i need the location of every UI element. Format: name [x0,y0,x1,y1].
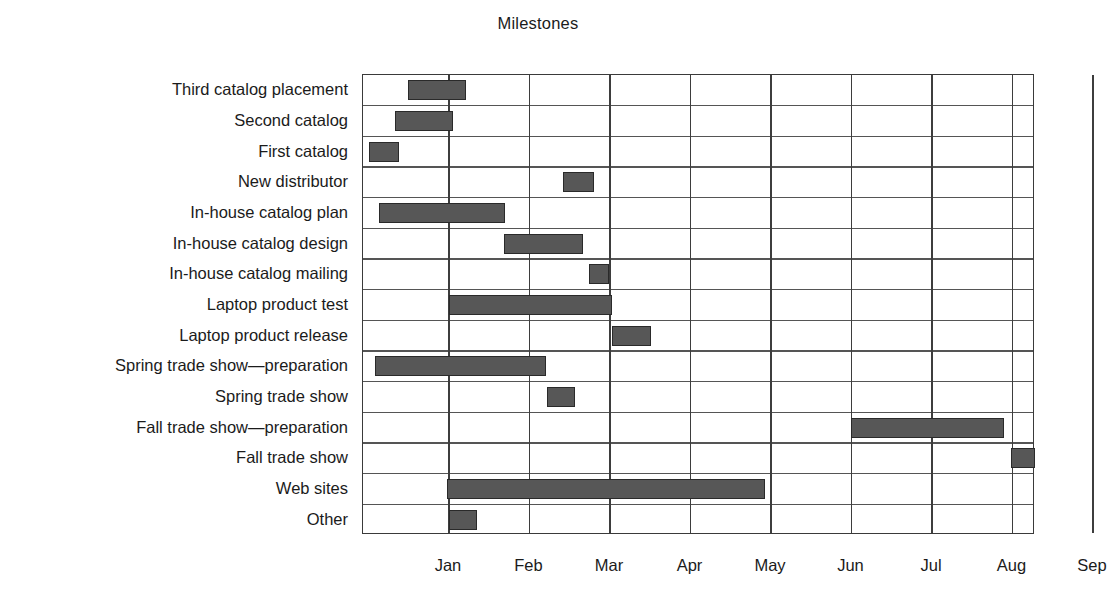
category-label: Spring trade show—preparation [0,357,348,374]
gantt-bar [408,80,466,100]
row-separator [363,504,1033,505]
category-axis-labels: Third catalog placementSecond catalogFir… [0,74,356,534]
plot-area [362,74,1034,534]
category-label: Laptop product test [0,296,348,313]
row-separator [363,350,1033,351]
gantt-bar [375,356,546,376]
gridline-jan [448,75,450,533]
category-label: Third catalog placement [0,81,348,98]
month-tick-label: Apr [655,556,725,575]
gantt-bar [1011,448,1035,468]
gantt-bar [612,326,651,346]
gridline-may [770,75,772,533]
gridline-sep [1092,75,1094,533]
month-tick-label: Aug [977,556,1047,575]
category-label: Web sites [0,480,348,497]
gantt-bar [589,264,609,284]
row-separator [363,105,1033,106]
category-label: In-house catalog plan [0,204,348,221]
month-tick-label: Sep [1057,556,1111,575]
gantt-bar [449,295,612,315]
horizontal-gridlines [363,75,1033,533]
row-separator [363,197,1033,198]
row-separator [363,228,1033,229]
month-tick-label: Jul [896,556,966,575]
category-label: Second catalog [0,112,348,129]
category-label: Spring trade show [0,388,348,405]
gantt-bar [547,387,574,407]
category-label: In-house catalog mailing [0,265,348,282]
category-label: Fall trade show [0,449,348,466]
row-separator [363,381,1033,382]
gridline-aug [1012,75,1014,533]
category-label: New distributor [0,173,348,190]
gantt-bar [369,142,399,162]
gridline-apr [690,75,692,533]
row-separator [363,442,1033,443]
month-tick-label: Feb [494,556,564,575]
row-separator [363,320,1033,321]
gantt-bars [363,75,1033,533]
gantt-bar [395,111,453,131]
vertical-gridlines [363,75,1033,533]
row-separator [363,136,1033,137]
category-label: Laptop product release [0,327,348,344]
month-axis-labels: JanFebMarAprMayJunJulAugSep [0,556,1076,582]
row-separator [363,258,1033,259]
gridline-mar [609,75,611,533]
month-tick-label: May [735,556,805,575]
chart-title: Milestones [0,14,1076,33]
category-label: First catalog [0,143,348,160]
gridline-jul [931,75,933,533]
gantt-bar [504,234,584,254]
gantt-bar [379,203,505,223]
gridline-jun [851,75,853,533]
row-separator [363,473,1033,474]
month-tick-label: Mar [574,556,644,575]
category-label: Fall trade show—preparation [0,419,348,436]
category-label: Other [0,511,348,528]
gantt-bar [449,510,477,530]
category-label: In-house catalog design [0,235,348,252]
gantt-bar [851,418,1004,438]
month-tick-label: Jun [816,556,886,575]
gantt-bar [447,479,765,499]
row-separator [363,289,1033,290]
row-separator [363,166,1033,167]
gantt-bar [563,172,594,192]
row-separator [363,412,1033,413]
gridline-feb [529,75,531,533]
month-tick-label: Jan [413,556,483,575]
